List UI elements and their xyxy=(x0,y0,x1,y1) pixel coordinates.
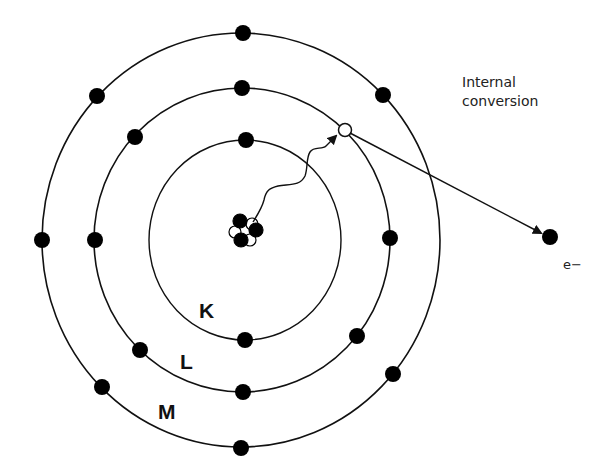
nucleus-icon xyxy=(229,214,263,247)
electron xyxy=(385,366,401,382)
ejected-electron-label: e− xyxy=(563,257,582,272)
electron xyxy=(234,80,250,96)
electron xyxy=(127,129,143,145)
k-shell-label: K xyxy=(199,299,214,323)
gamma-ray-wavy-arrow xyxy=(253,136,336,222)
m-shell-label: M xyxy=(158,400,176,424)
electron xyxy=(89,88,105,104)
electron xyxy=(233,440,249,456)
annotation-line-1: Internal xyxy=(462,73,538,92)
l-shell-label: L xyxy=(180,350,193,374)
electron xyxy=(238,132,254,148)
annotation-label: Internal conversion xyxy=(462,73,538,111)
ejected-electron xyxy=(542,229,558,245)
electron xyxy=(87,232,103,248)
annotation-line-2: conversion xyxy=(462,92,538,111)
electron xyxy=(349,328,365,344)
electron xyxy=(382,230,398,246)
electron xyxy=(375,87,391,103)
electron xyxy=(34,232,50,248)
electron xyxy=(237,332,253,348)
electron xyxy=(235,384,251,400)
vacancy-hole xyxy=(339,124,352,137)
electron xyxy=(94,379,110,395)
electron xyxy=(235,25,251,41)
electron xyxy=(132,342,148,358)
atom-diagram xyxy=(0,0,606,471)
